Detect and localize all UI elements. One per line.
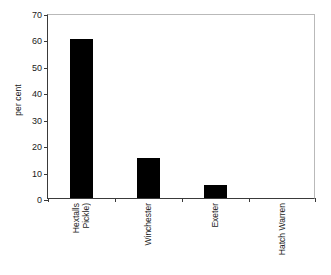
y-axis-tick-mark: [44, 68, 48, 69]
x-axis-tick-mark: [115, 198, 116, 202]
y-axis-title-text: per cent: [13, 84, 23, 116]
y-axis-tick-mark: [44, 15, 48, 16]
y-axis-tick-mark: [44, 94, 48, 95]
x-axis-category-label-line: Winchester: [143, 203, 153, 246]
x-axis-category-label: Hatch Warren: [262, 203, 302, 275]
x-axis-category-label-line: Hextalls: [71, 203, 81, 233]
y-axis-title: per cent: [8, 0, 28, 200]
x-axis-category-label-line: Hatch Warren: [277, 203, 287, 255]
x-axis-category-label: Winchester: [128, 203, 168, 275]
y-axis-tick-mark: [44, 121, 48, 122]
bar-chart-figure: per cent 010203040506070 HextallsPickle)…: [0, 0, 331, 275]
x-axis-tick-mark: [315, 198, 316, 202]
bar: [137, 158, 160, 198]
x-axis-tick-mark: [48, 198, 49, 202]
y-axis-tick-mark: [44, 41, 48, 42]
x-axis-category-label: HextallsPickle): [61, 203, 101, 275]
x-axis-category-label-line: Pickle): [81, 203, 91, 229]
bar: [204, 185, 227, 198]
x-axis-category-label: Exeter: [195, 203, 235, 275]
y-axis-tick-mark: [44, 174, 48, 175]
x-axis-labels: HextallsPickle)WinchesterExeterHatch War…: [47, 203, 315, 275]
y-axis-tick-mark: [44, 147, 48, 148]
x-axis-category-label-line: Exeter: [210, 203, 220, 228]
bar: [70, 39, 93, 198]
x-axis-tick-mark: [249, 198, 250, 202]
plot-area: 010203040506070: [47, 14, 315, 199]
x-axis-tick-mark: [182, 198, 183, 202]
